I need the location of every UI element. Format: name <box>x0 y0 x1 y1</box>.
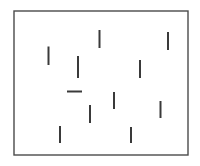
bounding-rectangle <box>14 11 188 155</box>
line-segment-group <box>49 30 169 143</box>
line-segment-figure <box>0 0 200 166</box>
stimulus-canvas <box>0 0 200 166</box>
